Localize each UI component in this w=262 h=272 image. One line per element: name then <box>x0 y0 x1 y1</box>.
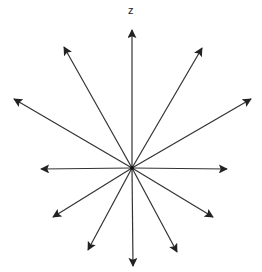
origin-point <box>130 166 134 170</box>
arrow-left <box>41 168 132 169</box>
arrow-lower-left-2 <box>88 168 132 250</box>
radial-arrows-diagram <box>0 0 262 272</box>
arrow-upper-right-1 <box>132 48 202 168</box>
arrow-down <box>132 168 133 266</box>
arrow-upper-right-2 <box>132 99 251 168</box>
arrow-lower-right-2 <box>132 168 177 252</box>
arrow-lower-right-1 <box>132 168 213 217</box>
arrow-group <box>14 30 251 266</box>
z-axis-label: z <box>128 4 134 16</box>
arrow-lower-left-1 <box>53 168 132 217</box>
arrow-upper-left-2 <box>14 99 132 168</box>
arrow-right <box>132 168 227 169</box>
arrow-upper-left-1 <box>64 47 132 168</box>
